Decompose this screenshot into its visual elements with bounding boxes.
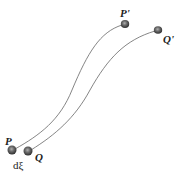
label-q-prime: Q' — [163, 34, 174, 45]
label-p-prime: P' — [120, 8, 130, 19]
curve-p-to-p-prime — [15, 25, 122, 149]
point-q-prime — [154, 26, 162, 34]
label-p: P — [5, 136, 12, 147]
diagram-canvas: P Q P' Q' dξ — [0, 0, 181, 178]
label-q: Q — [35, 152, 43, 163]
separation-label: dξ — [13, 160, 23, 171]
point-p-prime — [121, 20, 129, 28]
point-q — [24, 147, 33, 156]
diagram-svg — [0, 0, 181, 178]
